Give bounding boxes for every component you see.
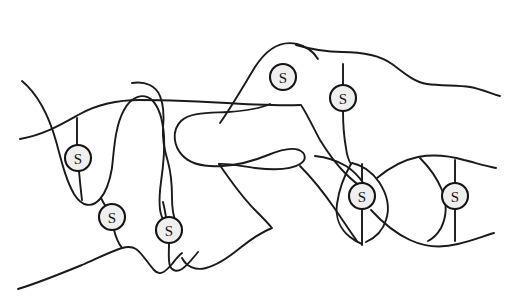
polymer-chain-segment <box>114 230 122 248</box>
network-diagram: SSSSSSS <box>0 0 508 302</box>
polymer-chain-segment <box>22 81 164 219</box>
polymer-chain-segment <box>296 45 500 96</box>
sulfur-crosslink-node[interactable]: S <box>270 64 296 90</box>
sulfur-crosslink-node[interactable]: S <box>156 217 182 243</box>
polymer-chain-segment <box>175 104 305 169</box>
polymer-chain-segment <box>79 171 82 200</box>
polymer-chain-segment <box>301 105 362 187</box>
polymer-chain-segment <box>343 111 351 164</box>
polymer-chains-layer <box>18 43 500 289</box>
sulfur-node-circle <box>330 85 356 111</box>
polymer-chain-segment <box>315 156 364 184</box>
sulfur-node-circle <box>65 145 91 171</box>
sulfur-node-circle <box>270 64 296 90</box>
sulfur-node-circle <box>349 183 375 209</box>
sulfur-crosslink-node[interactable]: S <box>330 85 356 111</box>
polymer-chain-segment <box>182 164 272 269</box>
sulfur-crosslink-node[interactable]: S <box>349 183 375 209</box>
sulfur-node-circle <box>156 217 182 243</box>
polymer-network-canvas: SSSSSSS <box>0 0 508 302</box>
sulfur-crosslink-node[interactable]: S <box>99 204 125 230</box>
crosslink-nodes-layer: SSSSSSS <box>65 64 468 243</box>
sulfur-node-circle <box>99 204 125 230</box>
sulfur-node-circle <box>442 183 468 209</box>
polymer-chain-segment <box>20 100 300 139</box>
polymer-chain-segment <box>377 156 496 178</box>
sulfur-crosslink-node[interactable]: S <box>65 145 91 171</box>
sulfur-crosslink-node[interactable]: S <box>442 183 468 209</box>
polymer-chain-segment <box>18 247 182 289</box>
polymer-chain-segment <box>163 202 166 217</box>
polymer-chain-segment <box>169 244 198 271</box>
polymer-chain-segment <box>371 210 494 246</box>
